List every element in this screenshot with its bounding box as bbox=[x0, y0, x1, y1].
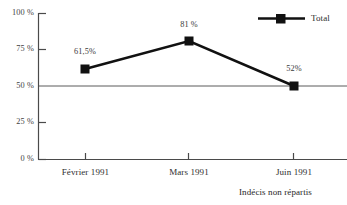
data-label-juin: 52% bbox=[272, 65, 316, 73]
footnote-text: Indécis non répartis bbox=[239, 188, 312, 197]
legend-swatch-total bbox=[258, 14, 305, 24]
y-tick-label-25: 25 % bbox=[2, 118, 34, 126]
data-label-fevrier: 61,5% bbox=[60, 48, 110, 56]
series-markers-total bbox=[81, 37, 299, 91]
x-tick-label-mars: Mars 1991 bbox=[145, 168, 233, 177]
x-tick-label-fevrier: Février 1991 bbox=[38, 168, 133, 177]
y-tick-label-75: 75 % bbox=[2, 45, 34, 53]
y-tick-label-100: 100 % bbox=[2, 9, 34, 17]
data-point-mars bbox=[185, 37, 194, 46]
data-point-fevrier bbox=[81, 65, 90, 74]
chart-figure: 100 % 75 % 50 % 25 % 0 % Février 1991 Ma… bbox=[0, 0, 347, 205]
data-label-mars: 81 % bbox=[165, 21, 213, 29]
legend-label-total: Total bbox=[311, 14, 330, 23]
y-tick-label-0: 0 % bbox=[2, 155, 34, 163]
x-tick-label-juin: Juin 1991 bbox=[254, 168, 334, 177]
x-axis-ticks bbox=[86, 153, 294, 160]
data-point-juin bbox=[290, 82, 299, 91]
y-tick-label-50: 50 % bbox=[2, 82, 34, 90]
series-line-total bbox=[85, 41, 294, 86]
